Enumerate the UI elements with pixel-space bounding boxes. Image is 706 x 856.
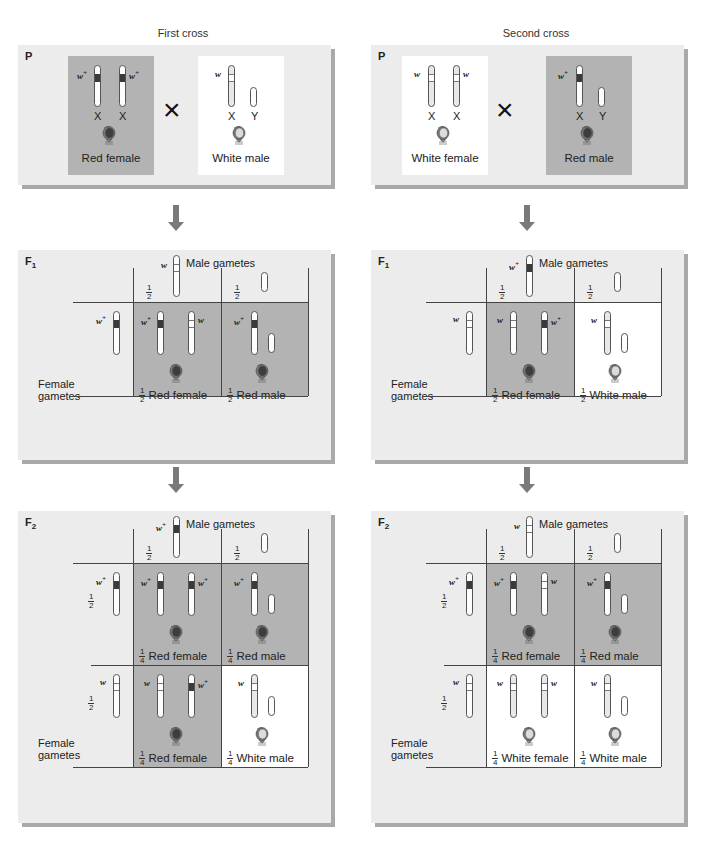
fraction-denominator: 4: [493, 657, 497, 665]
cross-symbol: ×: [163, 93, 181, 127]
male-gamete-fraction: 12: [499, 545, 505, 562]
x-chromosome-label: X: [428, 110, 435, 122]
offspring-fraction: 14: [580, 750, 586, 767]
generation-label: P: [25, 50, 32, 62]
x-chromosome: [526, 516, 533, 558]
grid-line: [574, 268, 575, 396]
red-eye-allele-band: [158, 581, 163, 589]
parental-generation-panel: Pw+w+XX Red femalewXY White male×: [18, 45, 331, 185]
fraction-denominator: 2: [147, 554, 151, 562]
generation-label: F2: [378, 516, 389, 531]
offspring-cell: w 14White male: [574, 665, 661, 767]
fraction-denominator: 2: [500, 293, 504, 301]
down-arrow-icon: [524, 205, 530, 223]
offspring-cell: w+w 12Red female: [133, 302, 221, 396]
y-chromosome: [621, 333, 628, 353]
f1-punnett-panel: F1Male gametesw+w 12Red femalew+ 12Red m…: [18, 250, 331, 460]
x-chromosome: [541, 311, 548, 355]
female-gametes-label: Female gametes: [38, 737, 88, 761]
white-eye-allele-band: [454, 74, 459, 82]
allele-label: w: [453, 677, 459, 687]
allele-label: w+: [558, 69, 568, 81]
allele-label: w: [100, 677, 106, 687]
x-chromosome: [510, 572, 517, 616]
grid-line: [486, 529, 487, 767]
allele-label: w: [453, 314, 459, 324]
fraction-denominator: 2: [588, 554, 592, 562]
x-chromosome: [526, 255, 533, 297]
x-chromosome: [541, 674, 548, 718]
grid-line: [486, 268, 487, 396]
allele-label: w+: [587, 576, 597, 588]
fraction-denominator: 2: [89, 704, 93, 712]
wildtype-superscript: +: [102, 314, 106, 322]
x-chromosome: [453, 65, 460, 107]
allele-label: w: [514, 521, 520, 531]
red-eyed-fly-icon: [169, 364, 183, 384]
offspring-cell: w 14White male: [221, 665, 308, 767]
allele-letter: w: [497, 315, 503, 325]
f1-punnett-panel: F1Male gametesww+ 12Red femalew 12White …: [371, 250, 684, 460]
parent-female-box: wwXX White female: [402, 56, 488, 175]
parent-male-box: w+XY Red male: [546, 56, 632, 175]
red-eyed-fly-icon: [169, 625, 183, 645]
x-chromosome: [113, 311, 120, 355]
generation-label: F1: [378, 255, 389, 270]
x-chromosome: [188, 311, 195, 355]
x-chromosome: [113, 674, 120, 718]
offspring-cell: ww+ 14Red female: [133, 665, 221, 767]
cross-title: First cross: [18, 27, 348, 39]
allele-label: w+: [449, 575, 459, 587]
x-chromosome: [604, 311, 611, 355]
female-gamete-fraction: 12: [88, 695, 94, 712]
x-chromosome: [604, 572, 611, 616]
female-gamete-fraction: 12: [441, 695, 447, 712]
grid-line: [426, 767, 661, 768]
x-chromosome: [94, 65, 101, 107]
wildtype-superscript: +: [500, 576, 504, 584]
y-chromosome: [268, 594, 275, 614]
offspring-cell: w+ 12Red male: [221, 302, 308, 396]
offspring-fraction: 14: [227, 648, 233, 665]
offspring-phenotype: Red male: [236, 389, 285, 401]
red-eye-allele-band: [158, 320, 163, 328]
x-chromosome: [173, 516, 180, 558]
fraction-denominator: 4: [228, 759, 232, 767]
phenotype-label: White male: [198, 152, 284, 164]
allele-label: w+: [234, 576, 244, 588]
male-gamete-fraction: 12: [146, 284, 152, 301]
offspring-phenotype: Red female: [148, 752, 207, 764]
offspring-label: 14Red male: [580, 648, 639, 665]
allele-label: w+: [77, 69, 87, 81]
allele-letter: w: [551, 678, 557, 688]
white-eyed-fly-icon: [608, 364, 622, 384]
allele-label: w: [198, 315, 204, 325]
y-chromosome: [598, 87, 605, 107]
male-gamete-fraction: 12: [587, 284, 593, 301]
white-eye-allele-band: [527, 525, 532, 533]
offspring-cell: w+w 14Red female: [486, 563, 574, 665]
wildtype-superscript: +: [135, 69, 139, 77]
fraction-denominator: 4: [581, 657, 585, 665]
allele-label: w+: [141, 315, 151, 327]
allele-label: w+: [129, 69, 139, 81]
red-eye-allele-band: [577, 74, 582, 82]
fraction-denominator: 2: [147, 293, 151, 301]
offspring-label: 14Red female: [139, 648, 207, 665]
grid-line: [73, 396, 308, 397]
y-chromosome: [614, 533, 621, 553]
offspring-fraction: 14: [580, 648, 586, 665]
allele-label: w: [161, 260, 167, 270]
allele-label: w+: [551, 315, 561, 327]
phenotype-label: Red male: [546, 152, 632, 164]
offspring-phenotype: Red male: [236, 650, 285, 662]
male-gamete-fraction: 12: [146, 545, 152, 562]
x-chromosome: [188, 572, 195, 616]
offspring-phenotype: Red male: [589, 650, 638, 662]
generation-subscript: 1: [385, 261, 389, 270]
offspring-phenotype: Red female: [501, 650, 560, 662]
allele-letter: w: [198, 315, 204, 325]
allele-label: w: [215, 69, 221, 79]
wildtype-superscript: +: [455, 575, 459, 583]
x-chromosome: [157, 311, 164, 355]
